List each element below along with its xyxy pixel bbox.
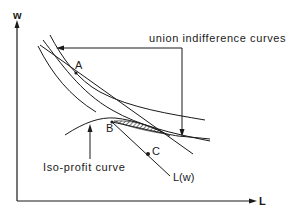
bracket-arrow-left-icon — [56, 46, 64, 51]
y-axis-arrow-icon — [15, 20, 20, 28]
x-axis-label: L — [259, 196, 266, 207]
labour-demand-line — [40, 45, 193, 154]
union-indifference-curves — [38, 35, 210, 141]
point-b-label: B — [106, 123, 113, 134]
point-a-label: A — [75, 60, 82, 71]
iso-profit-label: Iso-profit curve — [43, 162, 125, 173]
point-a-marker — [74, 71, 77, 74]
labour-demand-label: L(w) — [173, 172, 194, 183]
point-c-marker — [146, 152, 150, 156]
x-axis-arrow-icon — [249, 199, 257, 204]
diagram-canvas: w L A B C union indifference curves Iso-… — [0, 0, 292, 215]
y-axis-label: w — [13, 10, 22, 21]
iso-profit-pointer-arrow-icon — [88, 124, 93, 132]
indifference-curve-middle — [43, 40, 210, 141]
point-c-label: C — [152, 146, 160, 157]
union-indifference-label: union indifference curves — [149, 33, 286, 44]
